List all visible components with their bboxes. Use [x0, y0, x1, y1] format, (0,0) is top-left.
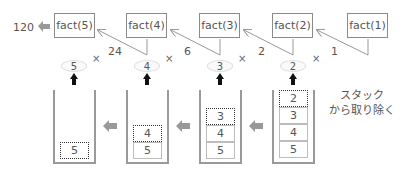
stack-cell-popped: 2: [279, 90, 308, 107]
stack-1: 5: [53, 90, 96, 164]
stack-3: 3 4 5: [199, 90, 242, 164]
multiply-sign: ×: [312, 54, 320, 64]
cell-value: 3: [290, 109, 297, 122]
fact-label: fact(1): [349, 19, 386, 32]
cell-value: 5: [144, 144, 151, 157]
return-value: 24: [108, 46, 122, 57]
popped-value-text: 2: [290, 61, 296, 72]
stack-cell: 3: [279, 107, 308, 124]
stack-4: 2 3 4 5: [272, 90, 315, 164]
up-arrow-icon: [143, 73, 151, 85]
stack-cell: 5: [279, 141, 308, 158]
multiply-sign: ×: [238, 54, 246, 64]
popped-value-text: 3: [217, 61, 223, 72]
return-value: 6: [184, 46, 191, 57]
popped-value: 3: [207, 60, 233, 72]
up-arrow-icon: [289, 73, 297, 85]
fact-box-5: fact(5): [54, 13, 95, 38]
return-value: 1: [331, 46, 338, 57]
popped-value-text: 5: [71, 61, 77, 72]
stack-cell-popped: 4: [133, 125, 162, 142]
stack-cell-popped: 5: [60, 142, 89, 159]
popped-value-text: 4: [144, 61, 150, 72]
fact-label: fact(5): [56, 19, 93, 32]
stack-cell: 4: [206, 125, 235, 142]
cell-value: 4: [144, 127, 151, 140]
cell-value: 5: [71, 144, 78, 157]
result-value: 120: [13, 22, 34, 33]
stack-cell: 5: [133, 142, 162, 159]
fact-box-4: fact(4): [126, 13, 167, 38]
left-arrow-icon: [103, 120, 117, 132]
up-arrow-icon: [70, 73, 78, 85]
left-arrow-icon: [249, 120, 263, 132]
stack-cell: 5: [206, 142, 235, 159]
multiply-sign: ×: [165, 54, 173, 64]
return-value: 2: [258, 46, 265, 57]
multiply-sign: ×: [92, 54, 100, 64]
cell-value: 5: [290, 143, 297, 156]
popped-value: 2: [280, 60, 306, 72]
fact-label: fact(4): [128, 19, 165, 32]
result-arrow-icon: [38, 21, 50, 32]
popped-value: 5: [61, 60, 87, 72]
cell-value: 2: [290, 92, 297, 105]
fact-label: fact(3): [201, 19, 238, 32]
left-arrow-icon: [176, 120, 190, 132]
cell-value: 4: [290, 126, 297, 139]
fact-box-1: fact(1): [347, 13, 388, 38]
cell-value: 5: [217, 144, 224, 157]
stack-removal-caption: スタック から取り除く: [322, 88, 402, 118]
fact-label: fact(2): [274, 19, 311, 32]
stack-cell-popped: 3: [206, 108, 235, 125]
fact-box-2: fact(2): [272, 13, 313, 38]
popped-value: 4: [134, 60, 160, 72]
cell-value: 3: [217, 110, 224, 123]
up-arrow-icon: [216, 73, 224, 85]
stack-2: 4 5: [126, 90, 169, 164]
cell-value: 4: [217, 127, 224, 140]
caption-line-2: から取り除く: [322, 103, 402, 118]
stack-cell: 4: [279, 124, 308, 141]
caption-line-1: スタック: [322, 88, 402, 103]
fact-box-3: fact(3): [199, 13, 240, 38]
